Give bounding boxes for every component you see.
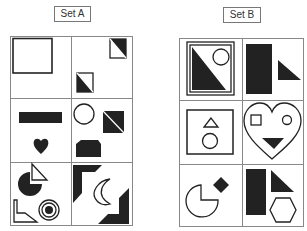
b-r1c2-black-rectangle (246, 44, 272, 94)
a-r3c1-concentric-inner (45, 206, 53, 214)
b-r2c2-black-triangle (262, 138, 284, 149)
a-r1c2-split-square-top (110, 39, 126, 58)
a-r2c1-black-rectangle (19, 112, 62, 123)
b-r3c2-outline-hexagon (270, 198, 296, 222)
b-r1c2-black-triangle (278, 60, 301, 80)
a-r2c2-split-square (103, 111, 124, 133)
b-r2c1-outline-square (187, 110, 233, 154)
a-r2c1-black-heart (34, 139, 49, 154)
b-r3c1-black-diamond (213, 177, 229, 193)
a-r3c2-outline-crescent (94, 179, 110, 205)
b-r2c2-outline-square (251, 115, 261, 125)
a-r2c2-black-rounded-rect (76, 140, 101, 157)
b-r3c1-outline-pie (186, 185, 218, 217)
a-r3c1-outline-l-shape (14, 200, 37, 222)
a-r2c2-outline-circle (74, 104, 94, 124)
b-r2c1-outline-triangle (204, 118, 218, 127)
b-r1c1-black-triangle (192, 47, 226, 90)
b-r2c2-outline-heart (244, 103, 301, 159)
a-r3c2-black-corner-top (73, 165, 102, 203)
a-r1c2-split-square-bottom (77, 73, 93, 92)
a-r3c2-black-corner-bottom (98, 188, 129, 224)
a-r1c1-outline-square (13, 39, 52, 74)
b-r1c1-outline-circle (213, 49, 229, 65)
b-r3c2-black-rectangle (246, 169, 266, 215)
b-r3c2-black-triangle (271, 170, 294, 192)
a-r3c1-outline-triangle (32, 164, 47, 180)
shapes-layer (0, 0, 307, 231)
b-r2c1-outline-circle (203, 134, 218, 149)
b-r2c2-outline-circle (283, 116, 292, 125)
